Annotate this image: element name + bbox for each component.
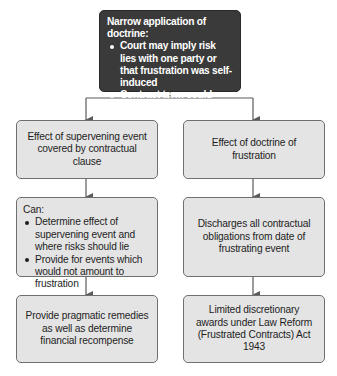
clause-capabilities-box: Can: Determine effect of supervening eve… — [16, 197, 158, 277]
clause-capabilities-bullet: Provide for events which would not amoun… — [23, 254, 151, 291]
narrow-application-heading: Narrow application of doctrine: — [107, 16, 234, 40]
contractual-clause-box: Effect of supervening event covered by c… — [16, 120, 158, 179]
pragmatic-remedies-box: Provide pragmatic remedies as well as de… — [16, 295, 158, 363]
doctrine-of-frustration-box: Effect of doctrine of frustration — [183, 120, 325, 179]
discharges-obligations-box: Discharges all contractual obligations f… — [183, 197, 325, 277]
narrow-application-list: Court may imply risk lies with one party… — [107, 40, 234, 125]
clause-capabilities-list: Determine effect of supervening event an… — [23, 216, 151, 290]
discretionary-awards-box: Limited discretionary awards under Law R… — [183, 295, 325, 363]
clause-capabilities-bullet: Determine effect of supervening event an… — [23, 216, 151, 253]
narrow-application-bullet: Court may imply risk lies with one party… — [107, 40, 234, 89]
contractual-clause-text: Effect of supervening event covered by c… — [25, 131, 149, 168]
doctrine-of-frustration-text: Effect of doctrine of frustration — [192, 137, 316, 162]
clause-capabilities-heading: Can: — [23, 204, 151, 216]
pragmatic-remedies-text: Provide pragmatic remedies as well as de… — [25, 310, 149, 347]
discretionary-awards-text: Limited discretionary awards under Law R… — [192, 304, 316, 354]
narrow-application-box: Narrow application of doctrine: Court ma… — [99, 10, 241, 92]
discharges-obligations-text: Discharges all contractual obligations f… — [192, 218, 316, 255]
